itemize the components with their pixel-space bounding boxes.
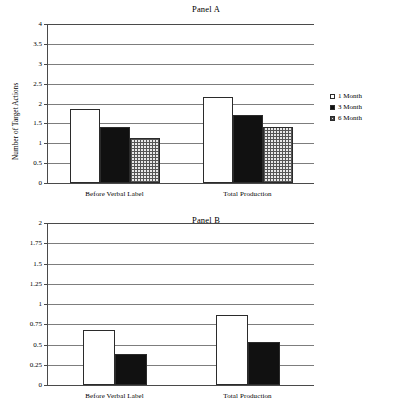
y-axis-tick-label: 0.5 (33, 341, 42, 349)
legend-label: 1 Month (338, 92, 362, 100)
bar-1-month (83, 330, 115, 385)
y-axis-tick-label: 3.5 (33, 40, 42, 48)
bar-3-month (248, 342, 280, 385)
legend-item: 1 Month (330, 92, 362, 100)
y-axis-tick-label: 1 (39, 300, 43, 308)
figure-two-panel-bar-chart: Panel A Number of Target Actions 00.511.… (0, 0, 412, 419)
legend-item: 3 Month (330, 103, 362, 111)
x-axis-category-label: Total Production (223, 190, 271, 198)
y-axis-tick-label: 2 (39, 219, 43, 227)
y-axis-tick (44, 183, 48, 184)
y-axis-tick-label: 2.5 (33, 80, 42, 88)
panel-a-title: Panel A (0, 4, 412, 14)
y-axis-tick-label: 1 (39, 139, 43, 147)
x-axis-category-label: Total Production (223, 392, 271, 400)
bar-group: Before Verbal Label (48, 24, 181, 183)
y-axis-tick-label: 0.5 (33, 159, 42, 167)
bar-1-month (216, 315, 248, 385)
bar-1-month (70, 109, 100, 183)
panel-a-plot-area: 00.511.522.533.54 Before Verbal LabelTot… (47, 24, 314, 184)
panel-b-plot-area: 00.250.50.7511.251.51.752 Before Verbal … (47, 223, 314, 386)
y-axis-tick-label: 1.25 (30, 280, 42, 288)
y-axis-tick-label: 1.5 (33, 119, 42, 127)
bar-3-month (100, 127, 130, 183)
y-axis-tick (44, 385, 48, 386)
y-axis-tick-label: 2 (39, 100, 43, 108)
x-axis-category-label: Before Verbal Label (85, 190, 144, 198)
y-axis-tick-label: 4 (39, 20, 43, 28)
y-axis-tick-label: 0.25 (30, 361, 42, 369)
panel-a-bars: Before Verbal LabelTotal Production (48, 24, 314, 183)
panel-b: Panel B Number of Ordered Pairs 00.250.5… (0, 207, 412, 419)
bar-group: Total Production (181, 24, 314, 183)
y-axis-tick-label: 0 (39, 381, 43, 389)
bar-6-month (130, 138, 160, 183)
legend-swatch-icon (330, 116, 335, 121)
panel-b-bars: Before Verbal LabelTotal Production (48, 223, 314, 385)
x-axis-category-label: Before Verbal Label (85, 392, 144, 400)
bar-group: Total Production (181, 223, 314, 385)
bar-6-month (263, 127, 293, 183)
panel-a-y-axis-title: Number of Target Actions (12, 83, 20, 160)
bar-group: Before Verbal Label (48, 223, 181, 385)
bar-3-month (233, 115, 263, 183)
legend-label: 6 Month (338, 114, 362, 122)
y-axis-tick-label: 3 (39, 60, 43, 68)
y-axis-tick-label: 0.75 (30, 320, 42, 328)
bar-1-month (203, 97, 233, 183)
legend-label: 3 Month (338, 103, 362, 111)
panel-a-legend: 1 Month3 Month6 Month (330, 92, 362, 125)
y-axis-tick-label: 1.75 (30, 239, 42, 247)
y-axis-tick-label: 1.5 (33, 260, 42, 268)
panel-a: Panel A Number of Target Actions 00.511.… (0, 0, 412, 205)
bar-3-month (115, 354, 147, 385)
legend-item: 6 Month (330, 114, 362, 122)
y-axis-tick-label: 0 (39, 179, 43, 187)
legend-swatch-icon (330, 94, 335, 99)
legend-swatch-icon (330, 105, 335, 110)
